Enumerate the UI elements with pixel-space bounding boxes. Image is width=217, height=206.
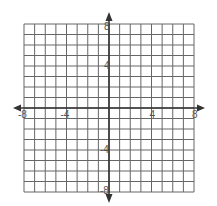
x-tick-label: 4 — [150, 109, 156, 120]
y-axis-arrow-up-icon — [106, 12, 113, 21]
x-axis-arrow-right-icon — [197, 105, 205, 112]
y-tick-label: 8 — [104, 21, 110, 32]
x-tick-label: -8 — [18, 109, 27, 120]
y-tick-label: -8 — [100, 185, 109, 196]
y-tick-label: 4 — [104, 60, 110, 71]
x-tick-label: -4 — [61, 109, 70, 120]
coordinate-plane: -8 -4 4 8 8 4 -4 -8 — [0, 0, 217, 206]
axes — [13, 12, 205, 203]
y-tick-label: -4 — [100, 144, 109, 155]
x-tick-label: 8 — [192, 109, 198, 120]
